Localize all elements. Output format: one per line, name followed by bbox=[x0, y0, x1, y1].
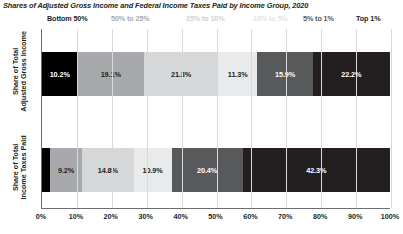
gridline bbox=[147, 29, 148, 208]
y-axis-label-line2: Income Taxes Paid bbox=[20, 123, 28, 211]
x-axis-tick-label: 70% bbox=[278, 212, 292, 221]
chart-container: Shares of Adjusted Gross Income and Fede… bbox=[0, 0, 403, 234]
gridline bbox=[182, 29, 183, 208]
chart-legend: Bottom 50%50% to 25%25% to 10%10% to 5%5… bbox=[41, 14, 390, 26]
bar-segment: 19.1% bbox=[78, 52, 144, 96]
x-axis-tick-label: 60% bbox=[243, 212, 257, 221]
bar-segment: 42.3% bbox=[243, 148, 390, 192]
bar-segment: 10.2% bbox=[42, 52, 78, 96]
bar-segment: 22.2% bbox=[313, 52, 390, 96]
legend-item: Bottom 50% bbox=[47, 14, 88, 23]
gridline bbox=[251, 29, 252, 208]
bar-segment: 10.9% bbox=[134, 148, 172, 192]
gridline bbox=[217, 29, 218, 208]
chart-title: Shares of Adjusted Gross Income and Fede… bbox=[3, 1, 399, 10]
bar-segment: 14.8% bbox=[82, 148, 134, 192]
x-axis-tick-label: 50% bbox=[208, 212, 222, 221]
x-axis-tick-label: 40% bbox=[173, 212, 187, 221]
x-axis-tick-label: 90% bbox=[348, 212, 362, 221]
gridline bbox=[391, 29, 392, 208]
x-axis-tick-label: 100% bbox=[381, 212, 399, 221]
plot-area: 10.2%19.1%21.3%11.3%15.9%22.2% 9.2%14.8%… bbox=[41, 29, 390, 209]
gridline bbox=[77, 29, 78, 208]
legend-item: Top 1% bbox=[356, 14, 380, 23]
gridline bbox=[286, 29, 287, 208]
y-axis-label-adjusted-gross-income: Share of Total Adjusted Gross Income bbox=[12, 27, 29, 115]
bar-segment bbox=[42, 148, 50, 192]
legend-item: 10% to 5% bbox=[253, 14, 288, 23]
gridline bbox=[356, 29, 357, 208]
bar-segment: 15.9% bbox=[257, 52, 312, 96]
x-axis-tick-label: 20% bbox=[104, 212, 118, 221]
y-axis-label-line2: Adjusted Gross Income bbox=[20, 27, 28, 115]
gridline bbox=[321, 29, 322, 208]
legend-item: 25% to 10% bbox=[186, 14, 225, 23]
x-axis-tick-label: 10% bbox=[69, 212, 83, 221]
y-axis-label-income-taxes-paid: Share of Total Income Taxes Paid bbox=[12, 123, 29, 211]
x-axis-tick-label: 80% bbox=[313, 212, 327, 221]
x-axis-tick-label: 0% bbox=[36, 212, 46, 221]
x-axis-tick-label: 30% bbox=[138, 212, 152, 221]
legend-item: 50% to 25% bbox=[111, 14, 150, 23]
gridline bbox=[112, 29, 113, 208]
legend-item: 5% to 1% bbox=[303, 14, 334, 23]
